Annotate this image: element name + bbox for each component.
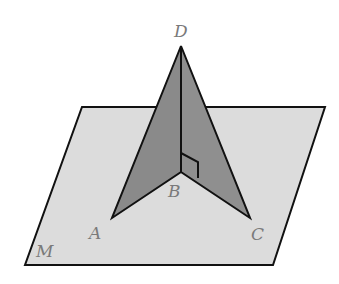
label-b: B xyxy=(167,181,181,201)
label-m: M xyxy=(35,241,54,261)
label-d: D xyxy=(173,21,188,41)
label-c: C xyxy=(251,224,264,244)
label-a: A xyxy=(87,223,101,243)
geometry-diagram: D B A C M xyxy=(0,0,339,284)
